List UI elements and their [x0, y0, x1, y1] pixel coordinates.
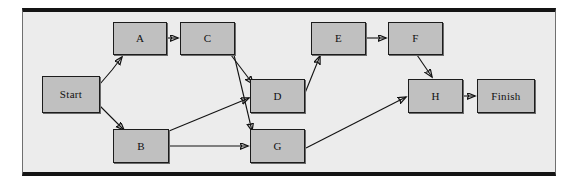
edge-d-e — [305, 56, 320, 93]
node-h[interactable]: H — [408, 79, 463, 113]
node-d[interactable]: D — [250, 79, 305, 113]
node-g-label: G — [273, 141, 281, 152]
node-start-label: Start — [60, 89, 82, 100]
node-finish[interactable]: Finish — [477, 79, 535, 113]
node-a[interactable]: A — [113, 22, 167, 55]
node-b-label: B — [137, 141, 145, 152]
edge-b-d — [169, 98, 249, 131]
node-start[interactable]: Start — [42, 76, 100, 113]
edge-start-a — [100, 57, 122, 84]
node-c-label: C — [204, 33, 212, 44]
node-e[interactable]: E — [311, 22, 366, 55]
diagram-canvas: StartACBDGEFHFinish — [0, 0, 578, 185]
edge-f-h — [417, 55, 432, 77]
node-b[interactable]: B — [113, 129, 169, 163]
node-d-label: D — [273, 91, 281, 102]
node-f-label: F — [412, 33, 418, 44]
node-e-label: E — [335, 33, 342, 44]
edge-g-h — [306, 97, 406, 148]
node-g[interactable]: G — [250, 129, 305, 163]
node-h-label: H — [431, 91, 439, 102]
node-finish-label: Finish — [491, 91, 520, 102]
edge-start-b — [100, 106, 124, 130]
node-f[interactable]: F — [388, 22, 443, 55]
node-a-label: A — [136, 33, 144, 44]
flowchart-graph: StartACBDGEFHFinish — [0, 0, 578, 185]
node-c[interactable]: C — [180, 22, 235, 55]
